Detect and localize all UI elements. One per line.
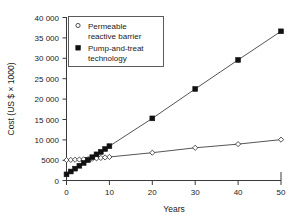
legend-label-permeable-line1: Permeable — [88, 22, 127, 31]
y-tick-label-40000: 40 000 — [35, 14, 60, 23]
x-tick-label-40: 40 — [234, 188, 243, 197]
x-tick-label-10: 10 — [105, 188, 114, 197]
y-tick-label-10000: 10 000 — [35, 136, 60, 145]
data-point-filled-square — [107, 144, 112, 149]
legend-label-pump-line1: Pump-and-treat — [88, 44, 144, 53]
y-tick-label-35000: 35 000 — [35, 34, 60, 43]
cost-comparison-line-chart: 40 000 35 000 30 000 25 000 20 000 15 00… — [0, 0, 291, 224]
data-point-filled-square — [279, 29, 284, 34]
filled-square-icon — [76, 46, 81, 51]
x-tick-label-20: 20 — [148, 188, 157, 197]
y-tick-label-30000: 30 000 — [35, 54, 60, 63]
y-tick-label-20000: 20 000 — [35, 95, 60, 104]
open-diamond-icon — [76, 23, 80, 27]
chart-legend: Permeable reactive barrier Pump-and-trea… — [69, 17, 164, 67]
legend-label-permeable-line2: reactive barrier — [88, 32, 142, 41]
y-tick-label-25000: 25 000 — [35, 75, 60, 84]
data-point-filled-square — [150, 116, 155, 121]
x-axis-title: Years — [163, 204, 184, 214]
chart-figure: 40 000 35 000 30 000 25 000 20 000 15 00… — [0, 0, 291, 224]
x-tick-label-50: 50 — [277, 188, 286, 197]
y-tick-label-15000: 15 000 — [35, 116, 60, 125]
y-tick-label-0: 0 — [55, 177, 60, 186]
legend-label-pump-line2: technology — [88, 54, 127, 63]
x-tick-label-0: 0 — [64, 188, 69, 197]
y-tick-label-5000: 5000 — [41, 156, 59, 165]
x-tick-label-30: 30 — [191, 188, 200, 197]
data-point-filled-square — [236, 58, 241, 63]
y-axis-title: Cost (US $ × 1000) — [6, 62, 16, 135]
data-point-filled-square — [193, 87, 198, 92]
